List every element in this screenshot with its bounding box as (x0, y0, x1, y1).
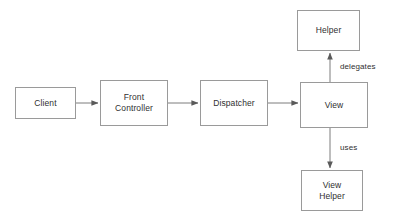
flow-diagram: Client Front Controller Dispatcher View … (0, 0, 394, 221)
node-view-label: View (325, 100, 344, 111)
node-dispatcher[interactable]: Dispatcher (200, 80, 268, 126)
node-front-controller[interactable]: Front Controller (100, 80, 168, 126)
node-front-controller-label: Front Controller (115, 92, 153, 114)
node-client[interactable]: Client (15, 87, 76, 119)
node-view-helper[interactable]: View Helper (301, 170, 363, 211)
node-helper[interactable]: Helper (297, 10, 360, 51)
edge-label-delegates: delegates (340, 62, 376, 72)
node-client-label: Client (34, 98, 56, 109)
edge-label-uses: uses (340, 143, 357, 153)
node-view-helper-label: View Helper (319, 180, 345, 202)
node-helper-label: Helper (316, 25, 342, 36)
node-dispatcher-label: Dispatcher (213, 98, 255, 109)
node-view[interactable]: View (300, 82, 368, 128)
